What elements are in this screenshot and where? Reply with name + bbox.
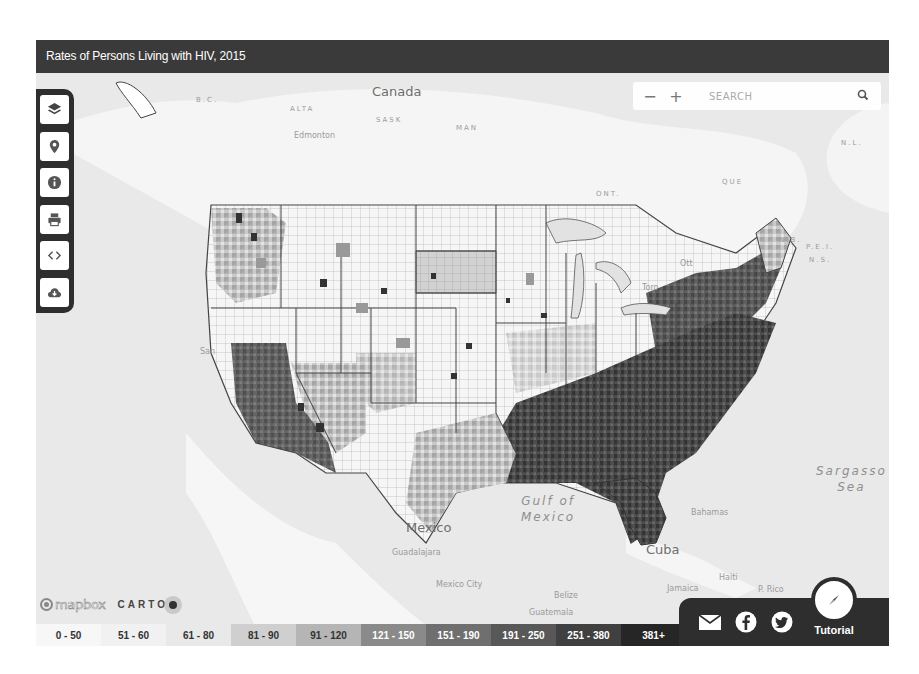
mapbox-logo[interactable]: mapbox [40, 597, 106, 612]
page-title: Rates of Persons Living with HIV, 2015 [46, 49, 245, 63]
info-button[interactable] [40, 168, 69, 197]
legend-item[interactable]: 381+ [621, 624, 686, 646]
map-pin-icon [47, 139, 62, 154]
location-button[interactable] [40, 132, 69, 161]
tutorial-button[interactable] [811, 577, 857, 623]
label-ont: ONT. [596, 190, 620, 198]
zoom-out-button[interactable]: − [637, 87, 663, 106]
search-icon[interactable] [857, 89, 869, 101]
label-bc: B.C. [196, 96, 218, 104]
code-icon [47, 248, 62, 263]
map-canvas[interactable]: Canada B.C. ALTA SASK MAN ONT. QUE N.L. … [36, 73, 889, 646]
layers-button[interactable] [40, 95, 69, 124]
label-belize: Belize [554, 591, 578, 600]
label-sargasso-sea: Sargasso Sea [816, 463, 887, 495]
label-puerto-rico: P. Rico [758, 585, 784, 594]
label-alta: ALTA [290, 105, 314, 113]
choropleth-map[interactable] [36, 73, 889, 646]
label-ottawa: Ott [680, 259, 693, 268]
label-sask: SASK [376, 116, 402, 124]
compass-icon [825, 591, 843, 609]
label-ns: N.S. [809, 256, 831, 264]
legend-item[interactable]: 61 - 80 [166, 624, 231, 646]
print-button[interactable] [40, 205, 69, 234]
carto-dot-icon [169, 601, 177, 609]
layers-icon [47, 102, 62, 117]
map-app: Rates of Persons Living with HIV, 2015 [36, 40, 889, 646]
envelope-icon[interactable] [699, 615, 721, 630]
label-canada: Canada [372, 84, 421, 99]
label-jamaica: Jamaica [667, 584, 698, 593]
label-guadalajara: Guadalajara [392, 548, 441, 557]
legend-item[interactable]: 251 - 380 [556, 624, 621, 646]
zoom-in-button[interactable]: + [663, 87, 689, 106]
carto-logo[interactable]: CARTO [118, 599, 177, 610]
label-guatemala: Guatemala [529, 608, 573, 617]
map-toolbar [36, 89, 74, 313]
label-toronto: Toro [642, 283, 658, 292]
label-bahamas: Bahamas [691, 508, 728, 517]
facebook-icon[interactable] [735, 611, 757, 633]
embed-button[interactable] [40, 241, 69, 270]
legend-item[interactable]: 0 - 50 [36, 624, 101, 646]
legend-item[interactable]: 91 - 120 [296, 624, 361, 646]
printer-icon [47, 212, 62, 227]
label-man: MAN [456, 124, 478, 132]
legend-item[interactable]: 151 - 190 [426, 624, 491, 646]
legend-item[interactable]: 121 - 150 [361, 624, 426, 646]
share-panel [679, 598, 889, 646]
label-que: QUE [722, 178, 743, 186]
label-edmonton: Edmonton [294, 131, 335, 140]
attribution: mapbox CARTO [40, 597, 177, 612]
tutorial-label[interactable]: Tutorial [811, 624, 857, 636]
legend: 0 - 50 51 - 60 61 - 80 81 - 90 91 - 120 … [36, 624, 686, 646]
label-haiti: Haiti [719, 573, 738, 582]
mapbox-icon [40, 598, 53, 611]
label-nl: N.L. [841, 139, 863, 147]
download-button[interactable] [40, 278, 69, 307]
twitter-icon[interactable] [771, 611, 793, 633]
search-input[interactable] [709, 91, 859, 102]
legend-item[interactable]: 81 - 90 [231, 624, 296, 646]
info-icon [47, 175, 62, 190]
cloud-download-icon [47, 285, 62, 300]
legend-item[interactable]: 191 - 250 [491, 624, 556, 646]
label-pei: P.E.I. [806, 243, 834, 251]
label-cuba: Cuba [646, 542, 680, 557]
label-nb: N.B. [779, 236, 802, 244]
title-bar: Rates of Persons Living with HIV, 2015 [36, 40, 889, 73]
label-mexico: Mexico [406, 520, 451, 535]
label-gulf-of-mexico: Gulf of Mexico [521, 493, 575, 525]
legend-item[interactable]: 51 - 60 [101, 624, 166, 646]
label-san-francisco: San [200, 347, 215, 356]
label-mexico-city: Mexico City [436, 580, 482, 589]
search-bar: − + [633, 82, 881, 110]
